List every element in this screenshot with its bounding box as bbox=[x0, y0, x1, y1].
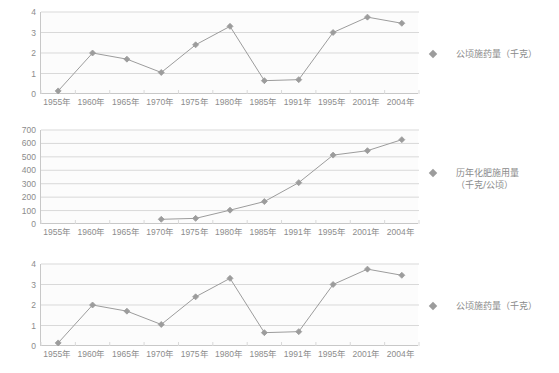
x-tick-label: 1955年 bbox=[43, 98, 71, 107]
x-tick-label: 1970年 bbox=[146, 350, 174, 359]
chart-block-top: 01234 1955年1960年1965年1970年1975年1980年1985… bbox=[0, 4, 559, 122]
y-tick-label: 4 bbox=[31, 8, 36, 17]
x-tick-label: 1985年 bbox=[249, 350, 277, 359]
legend-area-bottom: 公顷施药量（千克） bbox=[420, 256, 559, 373]
chart-block-bottom: 01234 1955年1960年1965年1970年1975年1980年1985… bbox=[0, 256, 559, 373]
y-tick-label: 3 bbox=[31, 280, 36, 289]
x-tick-label: 1960年 bbox=[78, 228, 106, 237]
plot-area-middle bbox=[40, 130, 418, 224]
legend-item-bottom[interactable]: 公顷施药量（千克） bbox=[428, 300, 537, 313]
legend-item-middle[interactable]: 历年化肥施用量 （千克/公顷） bbox=[428, 167, 519, 191]
x-tick-label: 1995年 bbox=[318, 350, 346, 359]
x-axis-labels-bottom: 1955年1960年1965年1970年1975年1980年1985年1991年… bbox=[40, 350, 418, 364]
x-tick-label: 1975年 bbox=[181, 350, 209, 359]
plot-area-top bbox=[40, 12, 418, 94]
plot-svg-bottom bbox=[41, 264, 419, 346]
y-tick-label: 2 bbox=[31, 301, 36, 310]
x-tick-label: 1965年 bbox=[112, 98, 140, 107]
y-tick-label: 0 bbox=[31, 220, 36, 229]
y-tick-label: 700 bbox=[22, 126, 36, 135]
legend-label-bottom: 公顷施药量（千克） bbox=[456, 300, 537, 312]
y-tick-label: 4 bbox=[31, 260, 36, 269]
legend-area-middle: 历年化肥施用量 （千克/公顷） bbox=[420, 126, 559, 254]
y-tick-label: 3 bbox=[31, 28, 36, 37]
x-tick-label: 1960年 bbox=[78, 98, 106, 107]
x-tick-label: 1955年 bbox=[43, 350, 71, 359]
y-tick-label: 1 bbox=[31, 321, 36, 330]
y-tick-label: 0 bbox=[31, 342, 36, 351]
y-axis-labels-bottom: 01234 bbox=[0, 264, 40, 346]
x-tick-label: 1975年 bbox=[181, 228, 209, 237]
y-tick-label: 100 bbox=[22, 206, 36, 215]
x-tick-label: 2001年 bbox=[352, 98, 380, 107]
x-tick-label: 1980年 bbox=[215, 228, 243, 237]
y-tick-label: 2 bbox=[31, 49, 36, 58]
x-tick-label: 1970年 bbox=[146, 228, 174, 237]
x-tick-label: 1970年 bbox=[146, 98, 174, 107]
x-tick-label: 1991年 bbox=[284, 350, 312, 359]
x-tick-label: 1980年 bbox=[215, 98, 243, 107]
plot-area-bottom bbox=[40, 264, 418, 346]
chart-page: 01234 1955年1960年1965年1970年1975年1980年1985… bbox=[0, 0, 559, 373]
x-tick-label: 1985年 bbox=[249, 98, 277, 107]
chart-area-top: 01234 1955年1960年1965年1970年1975年1980年1985… bbox=[0, 4, 420, 122]
legend-label-middle: 历年化肥施用量 （千克/公顷） bbox=[456, 167, 519, 191]
diamond-marker-icon bbox=[428, 168, 440, 180]
x-tick-label: 1965年 bbox=[112, 350, 140, 359]
x-tick-label: 1991年 bbox=[284, 228, 312, 237]
y-tick-label: 400 bbox=[22, 166, 36, 175]
y-tick-label: 600 bbox=[22, 139, 36, 148]
x-axis-labels-top: 1955年1960年1965年1970年1975年1980年1985年1991年… bbox=[40, 98, 418, 112]
x-tick-label: 2004年 bbox=[387, 228, 415, 237]
legend-label-top: 公顷施药量（千克） bbox=[456, 48, 537, 60]
x-tick-label: 1991年 bbox=[284, 98, 312, 107]
y-tick-label: 0 bbox=[31, 90, 36, 99]
x-tick-label: 1995年 bbox=[318, 98, 346, 107]
chart-block-middle: 0100200300400500600700 1955年1960年1965年19… bbox=[0, 126, 559, 254]
x-tick-label: 1965年 bbox=[112, 228, 140, 237]
y-tick-label: 300 bbox=[22, 179, 36, 188]
x-tick-label: 1955年 bbox=[43, 228, 71, 237]
y-tick-label: 500 bbox=[22, 153, 36, 162]
x-tick-label: 1985年 bbox=[249, 228, 277, 237]
chart-area-middle: 0100200300400500600700 1955年1960年1965年19… bbox=[0, 126, 420, 254]
y-axis-labels-top: 01234 bbox=[0, 12, 40, 94]
x-tick-label: 1980年 bbox=[215, 350, 243, 359]
legend-item-top[interactable]: 公顷施药量（千克） bbox=[428, 48, 537, 61]
x-axis-labels-middle: 1955年1960年1965年1970年1975年1980年1985年1991年… bbox=[40, 228, 418, 242]
legend-area-top: 公顷施药量（千克） bbox=[420, 4, 559, 122]
x-tick-label: 2004年 bbox=[387, 98, 415, 107]
x-tick-label: 1960年 bbox=[78, 350, 106, 359]
chart-area-bottom: 01234 1955年1960年1965年1970年1975年1980年1985… bbox=[0, 256, 420, 373]
diamond-marker-icon bbox=[428, 49, 440, 61]
x-tick-label: 1975年 bbox=[181, 98, 209, 107]
x-tick-label: 2001年 bbox=[352, 228, 380, 237]
x-tick-label: 1995年 bbox=[318, 228, 346, 237]
x-tick-label: 2001年 bbox=[352, 350, 380, 359]
plot-svg-middle bbox=[41, 130, 419, 224]
y-axis-labels-middle: 0100200300400500600700 bbox=[0, 130, 40, 224]
diamond-marker-icon bbox=[428, 301, 440, 313]
y-tick-label: 1 bbox=[31, 69, 36, 78]
plot-svg-top bbox=[41, 12, 419, 94]
y-tick-label: 200 bbox=[22, 193, 36, 202]
x-tick-label: 2004年 bbox=[387, 350, 415, 359]
